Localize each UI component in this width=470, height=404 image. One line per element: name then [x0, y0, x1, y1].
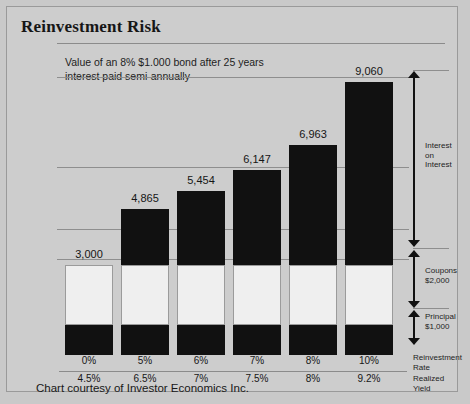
axis-tick-label: 8% — [289, 355, 337, 366]
arrow-down-icon — [408, 338, 420, 345]
bar-segment-coupons — [121, 265, 169, 325]
bracket-coupons — [413, 256, 415, 301]
axis-tick-label: 6% — [177, 355, 225, 366]
bar-value-label: 3,000 — [57, 248, 121, 260]
axis-tick-label: 5% — [121, 355, 169, 366]
annot-rule-interest-bottom — [413, 248, 449, 249]
plot-area: 3,000 4,865 5,454 — [57, 49, 409, 355]
annotation-interest-on-interest: Interest on Interest — [425, 141, 452, 170]
bar-segment-interest — [121, 209, 169, 265]
bar-segment-principal — [345, 325, 393, 355]
chart-source-footer: Chart courtesy of Investor Economics Inc… — [36, 382, 249, 394]
table-row[interactable]: 3,000 — [65, 265, 113, 355]
table-row[interactable]: 6,963 — [289, 145, 337, 355]
axis-row-reinvestment-rate: 0% 5% 6% 7% 8% 10% — [57, 355, 409, 371]
bar-value-label: 6,963 — [281, 128, 345, 140]
bar-segment-coupons — [65, 265, 113, 325]
axis-tick-label: 9.2% — [345, 373, 393, 384]
table-row[interactable]: 6,147 — [233, 170, 281, 355]
bar-segment-coupons — [345, 265, 393, 325]
bar-segment-principal — [65, 325, 113, 355]
bar-value-label: 9,060 — [337, 65, 401, 77]
arrow-down-icon — [408, 301, 420, 308]
chart-screenshot: Reinvestment Risk Value of an 8% $1.000 … — [0, 0, 470, 404]
bar-value-label: 5,454 — [169, 174, 233, 186]
axis-tick-label: 0% — [65, 355, 113, 366]
axis-tick-label: 10% — [345, 355, 393, 366]
bracket-principal — [413, 316, 415, 338]
bar-segment-interest — [289, 145, 337, 265]
axis-row-divider — [59, 371, 407, 372]
bar-segment-coupons — [233, 265, 281, 325]
bar-segment-principal — [177, 325, 225, 355]
axis-name-realized-yield: Realized Yield — [413, 374, 457, 393]
table-row[interactable]: 5,454 — [177, 191, 225, 355]
bar-segment-principal — [233, 325, 281, 355]
bar-value-label: 6,147 — [225, 153, 289, 165]
bar-segment-coupons — [177, 265, 225, 325]
annotation-principal: Principal $1,000 — [425, 312, 456, 331]
axis-name-reinvestment-rate: Reinvestment Rate — [413, 353, 462, 372]
bar-segment-interest — [233, 170, 281, 265]
table-row[interactable]: 9,060 — [345, 82, 393, 355]
table-row[interactable]: 4,865 — [121, 209, 169, 355]
chart-panel: Reinvestment Risk Value of an 8% $1.000 … — [6, 6, 458, 392]
bar-segment-principal — [289, 325, 337, 355]
annot-rule-coupons-bottom — [413, 308, 449, 309]
bar-segment-interest — [177, 191, 225, 265]
axis-tick-label: 8% — [289, 373, 337, 384]
bar-group: 3,000 4,865 5,454 — [57, 49, 409, 355]
arrow-down-icon — [408, 240, 420, 247]
bar-segment-principal — [121, 325, 169, 355]
title-divider — [57, 43, 445, 44]
bar-value-label: 4,865 — [113, 192, 177, 204]
page-title: Reinvestment Risk — [21, 17, 161, 37]
axis-tick-label: 7% — [233, 355, 281, 366]
annotation-coupons: Coupons $2,000 — [425, 266, 457, 285]
bar-segment-interest — [345, 82, 393, 265]
bracket-interest-on-interest — [413, 77, 415, 240]
bar-segment-coupons — [289, 265, 337, 325]
